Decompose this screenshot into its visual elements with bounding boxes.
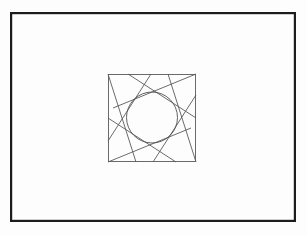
line-bottom-right-corner-up: [168, 74, 196, 162]
figure-canvas: [0, 0, 307, 236]
pinwheel-tangent-lines: [108, 74, 196, 162]
inner-square: [108, 74, 195, 161]
line-top-left-corner-down: [108, 74, 136, 162]
inscribed-circle: [127, 92, 178, 143]
geometric-figure: [0, 0, 307, 236]
outer-rectangle-border: [11, 13, 295, 221]
line-left-edge-sweep-down: [108, 118, 176, 162]
